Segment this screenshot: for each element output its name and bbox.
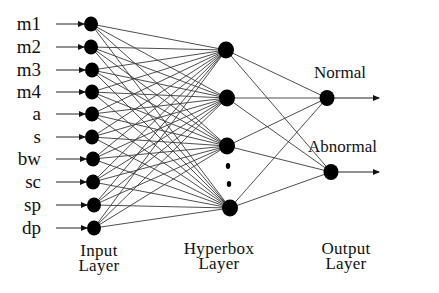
- connection-edge: [93, 50, 226, 182]
- output-label-normal: Normal: [314, 63, 366, 82]
- input-label-bw: bw: [18, 148, 42, 169]
- input-labels: m1m2m3m4asbwscspdp: [17, 13, 42, 238]
- input-node: [85, 63, 99, 78]
- input-arrows: [56, 24, 87, 228]
- input-node: [87, 198, 101, 213]
- connection-edge: [92, 70, 227, 98]
- connection-edge: [91, 47, 226, 50]
- input-label-sp: sp: [24, 194, 41, 215]
- connection-edge: [91, 24, 226, 50]
- input-label-m3: m3: [17, 59, 41, 80]
- hyperbox-node: [218, 42, 234, 59]
- hyperbox-layer-nodes: [218, 42, 238, 217]
- hyperbox-layer-title: Hyperbox Layer: [184, 239, 255, 273]
- input-layer-title-line2: Layer: [78, 256, 119, 275]
- connection-edge: [94, 146, 227, 228]
- output-label-abnormal: Abnormal: [308, 137, 377, 156]
- input-label-sc: sc: [25, 171, 41, 192]
- connection-edge: [91, 24, 227, 98]
- output-labels: NormalAbnormal: [308, 63, 377, 156]
- connection-edge: [227, 98, 331, 172]
- input-node: [87, 221, 101, 236]
- input-node: [84, 40, 98, 55]
- output-layer-title-line2: Layer: [325, 254, 366, 273]
- input-label-m2: m2: [17, 36, 41, 57]
- input-node: [85, 130, 99, 145]
- input-node: [86, 152, 100, 167]
- output-node: [324, 164, 339, 180]
- hyperbox-node: [219, 90, 235, 107]
- output-layer-nodes: [320, 90, 339, 180]
- connection-edge: [93, 98, 227, 182]
- input-node: [86, 175, 100, 190]
- output-node: [320, 90, 335, 106]
- connection-edge: [226, 50, 327, 98]
- input-node: [84, 17, 98, 32]
- input-node: [85, 107, 99, 122]
- ellipsis-dot: [226, 163, 230, 169]
- input-label-m4: m4: [17, 81, 42, 102]
- input-label-m1: m1: [17, 13, 41, 34]
- output-layer-title: Output Layer: [321, 239, 370, 273]
- input-hyperbox-connections: [91, 24, 230, 228]
- input-label-s: s: [34, 126, 41, 147]
- input-layer-title: Input Layer: [78, 241, 119, 275]
- input-label-a: a: [33, 103, 42, 124]
- output-arrows: [334, 98, 379, 172]
- hyperbox-layer-title-line2: Layer: [198, 254, 239, 273]
- connection-edge: [94, 50, 226, 228]
- connection-edge: [94, 208, 230, 228]
- ellipsis-dot: [227, 181, 231, 187]
- connection-edge: [93, 159, 230, 208]
- connection-edge: [230, 172, 331, 208]
- hyperbox-node: [222, 200, 238, 217]
- input-node: [85, 85, 99, 100]
- input-label-dp: dp: [22, 217, 41, 238]
- ellipsis-dots: [226, 163, 231, 187]
- hyperbox-node: [219, 138, 235, 155]
- neural-network-diagram: m1m2m3m4asbwscspdp NormalAbnormal Input …: [0, 0, 439, 293]
